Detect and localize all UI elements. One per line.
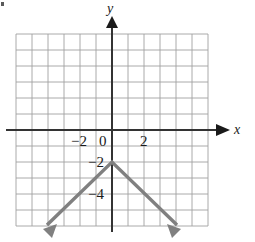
origin-label: 0 xyxy=(99,134,107,149)
x-tick-label-pos2: 2 xyxy=(140,134,148,149)
plot-canvas xyxy=(0,0,255,242)
x-tick-label-neg2: −2 xyxy=(71,134,87,149)
y-axis-arrow-icon xyxy=(106,16,118,28)
y-axis xyxy=(106,16,118,232)
x-axis-label: x xyxy=(234,123,240,137)
y-tick-label-neg2: −2 xyxy=(88,155,104,170)
y-tick-label-neg4: −4 xyxy=(88,187,104,202)
x-axis xyxy=(6,124,230,136)
coordinate-plot-figure: −2 0 2 −2 −4 x y xyxy=(0,0,255,242)
x-axis-arrow-icon xyxy=(216,124,230,136)
y-axis-label: y xyxy=(107,2,113,16)
